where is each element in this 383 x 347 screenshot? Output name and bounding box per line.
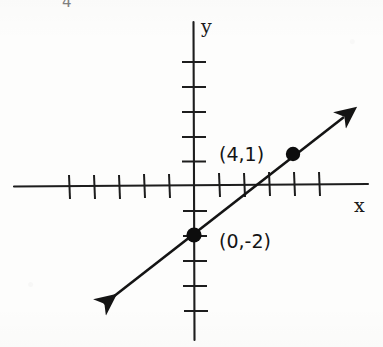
data-point-4-1 bbox=[286, 147, 300, 161]
coordinate-graph-figure: 4 bbox=[0, 0, 383, 347]
x-axis-line bbox=[14, 184, 368, 187]
y-axis-line bbox=[194, 22, 195, 340]
point-label-4-1: (4,1) bbox=[219, 143, 264, 165]
x-axis-label: x bbox=[354, 194, 365, 216]
y-axis-label: y bbox=[200, 15, 212, 37]
data-point-0-neg2 bbox=[186, 227, 201, 242]
graph-canvas: (4,1) (0,-2) x y bbox=[0, 0, 383, 347]
axis-lines bbox=[14, 22, 368, 340]
point-label-0-neg2: (0,-2) bbox=[219, 230, 271, 252]
